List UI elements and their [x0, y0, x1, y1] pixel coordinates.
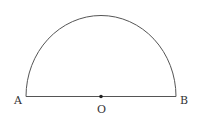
label-o: O	[97, 103, 106, 116]
label-a: A	[13, 94, 23, 107]
label-b: B	[180, 94, 188, 107]
semicircle-arc	[26, 16, 176, 97]
center-point-o	[99, 95, 103, 99]
semicircle-diagram: A O B	[0, 0, 201, 123]
